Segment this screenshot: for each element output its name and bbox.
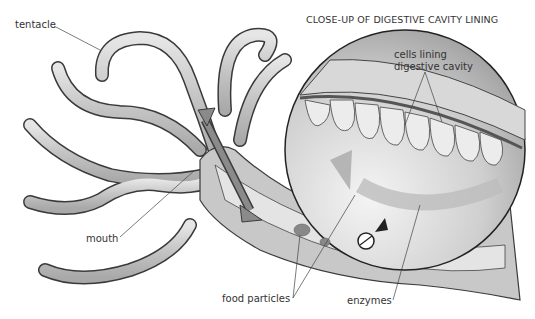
inset-title: CLOSE-UP OF DIGESTIVE CAVITY LINING: [306, 14, 498, 25]
label-cells-lining-2: digestive cavity: [394, 62, 473, 72]
label-food-particles: food particles: [222, 294, 290, 304]
label-tentacle: tentacle: [15, 20, 56, 30]
label-enzymes: enzymes: [347, 296, 392, 306]
label-cells-lining-1: cells lining: [394, 50, 447, 60]
label-mouth: mouth: [86, 234, 118, 244]
hydra-diagram: [0, 0, 535, 319]
